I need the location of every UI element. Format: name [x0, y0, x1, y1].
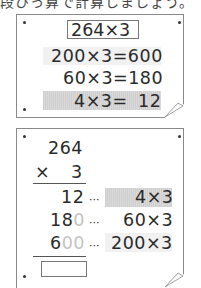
pin-dot-icon — [23, 135, 26, 138]
times-operator: × — [35, 163, 50, 181]
partial-180: 180 — [50, 211, 85, 229]
multiplier: 3 — [71, 163, 83, 181]
ellipsis: ··· — [89, 191, 100, 209]
multiplicand: 264 — [48, 139, 83, 157]
expr-60x3: 60×3 — [123, 211, 173, 229]
ellipsis: ··· — [89, 214, 100, 232]
problem-box: 264×3 — [67, 20, 139, 39]
trace-zeros: 00 — [62, 233, 85, 253]
problem-text: 264×3 — [71, 21, 130, 39]
partial-600: 600 — [50, 234, 85, 252]
page-curl-icon — [164, 100, 184, 118]
row-4x3: 4×3= — [74, 92, 128, 110]
sum-line — [33, 256, 86, 257]
answer-box[interactable] — [41, 261, 87, 277]
row-4x3-result: 12 — [138, 92, 161, 110]
pin-dot-icon — [178, 21, 181, 24]
sum-line — [33, 183, 86, 184]
trace-zero: 0 — [73, 210, 85, 230]
ellipsis: ··· — [89, 237, 100, 255]
row-60x3: 60×3=180 — [63, 69, 163, 87]
pin-dot-icon — [178, 135, 181, 138]
instruction-text-cutoff: 段ひっ算で計算しましょう。 — [0, 0, 201, 7]
page-curl-icon — [164, 270, 184, 288]
expr-4x3: 4×3 — [135, 188, 173, 206]
decomposition-card: 264×3 200×3=600 60×3=180 4×3= 12 — [16, 14, 184, 118]
pin-dot-icon — [23, 21, 26, 24]
vertical-multiplication-card: 264 × 3 12 ··· 4×3 180 ··· 60×3 600 ··· … — [16, 128, 184, 288]
row-200x3: 200×3=600 — [51, 47, 163, 65]
partial-12: 12 — [61, 188, 84, 206]
pin-dot-icon — [23, 108, 26, 111]
pin-dot-icon — [23, 275, 26, 278]
expr-200x3: 200×3 — [111, 234, 173, 252]
